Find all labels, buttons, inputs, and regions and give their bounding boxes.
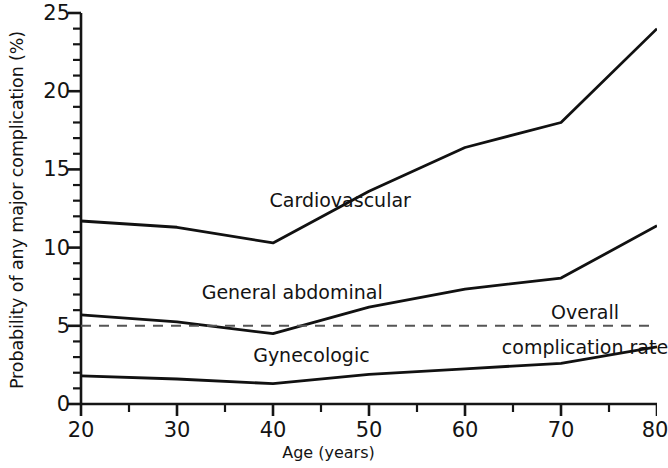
x-tick-label: 20: [68, 418, 95, 442]
x-tick-label: 70: [548, 418, 575, 442]
series-label-1: General abdominal: [202, 281, 383, 303]
series-label-0: Cardiovascular: [270, 189, 411, 211]
series-label-line-1: Overall: [502, 302, 668, 323]
y-tick-label: 15: [22, 157, 70, 181]
y-tick-label: 5: [22, 314, 70, 338]
y-tick-label: 0: [22, 392, 70, 416]
x-tick-label: 30: [164, 418, 191, 442]
x-tick-label: 60: [452, 418, 479, 442]
y-tick-label: 10: [22, 236, 70, 260]
x-tick-label: 40: [260, 418, 287, 442]
y-tick-label: 25: [22, 1, 70, 25]
series-label-2: Gynecologic: [253, 344, 369, 366]
x-axis-label-text: Age (years): [0, 443, 657, 462]
series-label-line-2: complication rate: [502, 337, 668, 358]
series-line-0: [81, 29, 657, 243]
x-tick-label: 80: [642, 418, 668, 442]
series-label-3: Overallcomplication rate: [502, 302, 668, 359]
x-tick-label: 50: [356, 418, 383, 442]
y-tick-label: 20: [22, 79, 70, 103]
